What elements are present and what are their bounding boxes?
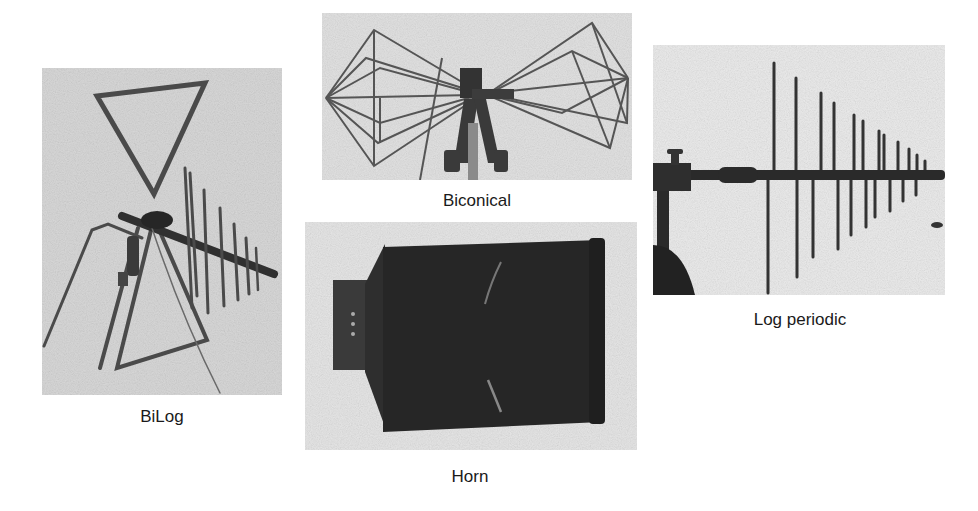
log-periodic-antenna-photo bbox=[653, 45, 945, 295]
biconical-caption: Biconical bbox=[412, 191, 542, 211]
bilog-antenna-photo bbox=[42, 68, 282, 395]
log-periodic-antenna-icon bbox=[653, 45, 945, 295]
bilog-antenna-icon bbox=[42, 68, 282, 395]
log-periodic-caption: Log periodic bbox=[720, 310, 880, 330]
horn-caption: Horn bbox=[430, 467, 510, 487]
horn-antenna-icon bbox=[305, 222, 637, 450]
horn-antenna-photo bbox=[305, 222, 637, 450]
biconical-antenna-icon bbox=[322, 13, 632, 180]
biconical-antenna-photo bbox=[322, 13, 632, 180]
bilog-caption: BiLog bbox=[112, 407, 212, 427]
